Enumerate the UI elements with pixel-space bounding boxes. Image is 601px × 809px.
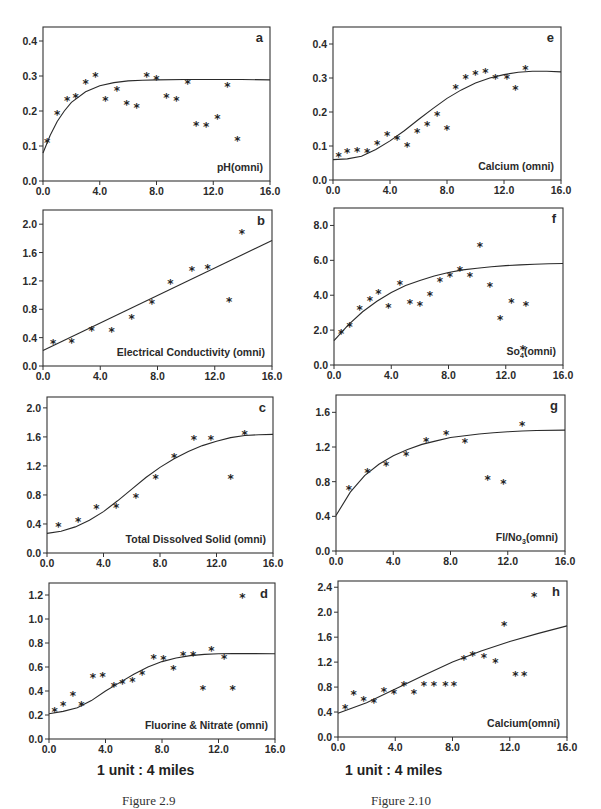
scale-label-left: 1 unit : 4 miles bbox=[97, 762, 194, 778]
data-point: * bbox=[391, 687, 398, 701]
scale-label-right: 1 unit : 4 miles bbox=[345, 762, 442, 778]
data-point: * bbox=[431, 679, 438, 693]
data-point: * bbox=[492, 656, 499, 670]
figure-caption-left: Figure 2.9 bbox=[122, 793, 175, 809]
data-point: * bbox=[531, 590, 538, 604]
data-point: * bbox=[371, 696, 378, 710]
figure-caption-right: Figure 2.10 bbox=[371, 793, 431, 809]
data-point: * bbox=[442, 679, 449, 693]
data-point: * bbox=[521, 669, 528, 683]
x-tick-label: 16.0 bbox=[557, 741, 578, 753]
data-point: * bbox=[451, 679, 458, 693]
y-tick-label: 1.2 bbox=[317, 656, 332, 668]
y-tick-label: 2.4 bbox=[317, 581, 332, 593]
data-point: * bbox=[421, 679, 428, 693]
y-tick-label: 0.8 bbox=[317, 681, 332, 693]
y-tick-label: 1.6 bbox=[317, 631, 332, 643]
data-point: * bbox=[361, 694, 368, 708]
data-point: * bbox=[411, 687, 418, 701]
y-tick-label: 0.4 bbox=[317, 706, 332, 718]
plot-frame bbox=[338, 581, 567, 737]
data-point: * bbox=[381, 685, 388, 699]
data-point: * bbox=[512, 669, 519, 683]
panel-letter: h bbox=[552, 584, 560, 599]
data-point: * bbox=[469, 649, 476, 663]
data-point: * bbox=[501, 619, 508, 633]
data-point: * bbox=[351, 688, 358, 702]
x-tick-label: 8.0 bbox=[445, 741, 460, 753]
y-tick-label: 2.0 bbox=[317, 606, 332, 618]
y-tick-label: 0.0 bbox=[317, 731, 332, 743]
data-point: * bbox=[342, 702, 349, 716]
x-tick-label: 0.0 bbox=[331, 741, 346, 753]
data-point: * bbox=[401, 679, 408, 693]
data-point: * bbox=[461, 653, 468, 667]
x-tick-label: 4.0 bbox=[388, 741, 403, 753]
x-tick-label: 12.0 bbox=[500, 741, 521, 753]
data-point: * bbox=[481, 651, 488, 665]
variable-label: Calcium(omni) bbox=[487, 717, 560, 729]
